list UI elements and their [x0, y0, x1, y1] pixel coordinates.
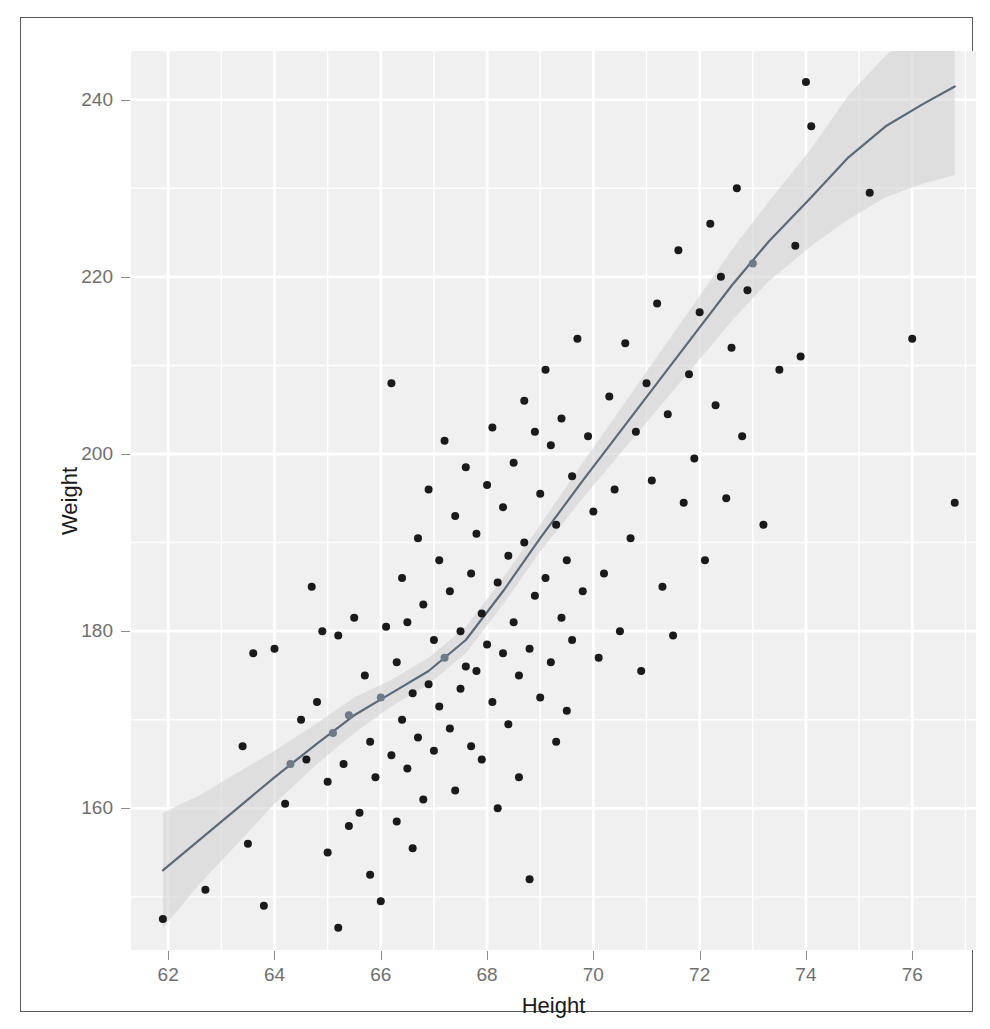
data-point [403, 618, 411, 626]
data-point [239, 742, 247, 750]
data-point [249, 649, 257, 657]
plot-canvas [131, 51, 976, 950]
data-point [568, 636, 576, 644]
x-tick-label: 70 [553, 965, 633, 984]
data-point [387, 379, 395, 387]
data-point [467, 742, 475, 750]
data-point [494, 578, 502, 586]
data-point [504, 552, 512, 560]
x-tick-mark [593, 951, 594, 960]
data-point [605, 392, 613, 400]
data-point [542, 366, 550, 374]
data-point [531, 592, 539, 600]
data-point [414, 733, 422, 741]
data-point [414, 534, 422, 542]
data-point [515, 773, 523, 781]
data-point [728, 344, 736, 352]
data-point [159, 915, 167, 923]
data-point [632, 428, 640, 436]
data-point [467, 570, 475, 578]
data-point [536, 694, 544, 702]
data-point [510, 459, 518, 467]
data-point [542, 574, 550, 582]
data-point [419, 601, 427, 609]
data-point [456, 627, 464, 635]
data-point [908, 335, 916, 343]
data-point [520, 397, 528, 405]
data-point [552, 738, 560, 746]
data-point [685, 370, 693, 378]
data-point [356, 809, 364, 817]
data-point [690, 454, 698, 462]
x-tick-mark [168, 951, 169, 960]
data-point [324, 849, 332, 857]
data-point [791, 242, 799, 250]
y-tick-mark [121, 100, 130, 101]
data-point [488, 423, 496, 431]
data-point [483, 640, 491, 648]
data-point [435, 702, 443, 710]
data-point [738, 432, 746, 440]
data-point [568, 472, 576, 480]
data-point [504, 720, 512, 728]
data-point [722, 494, 730, 502]
data-point [674, 246, 682, 254]
y-tick-label: 160 [41, 798, 113, 817]
data-point [866, 189, 874, 197]
x-tick-mark [487, 951, 488, 960]
data-point [286, 760, 294, 768]
data-point [600, 570, 608, 578]
data-point [706, 220, 714, 228]
data-point [717, 273, 725, 281]
data-point [643, 379, 651, 387]
data-point [270, 645, 278, 653]
data-point [759, 521, 767, 529]
data-point [297, 716, 305, 724]
data-point [526, 875, 534, 883]
data-point [499, 503, 507, 511]
data-point [664, 410, 672, 418]
data-point [712, 401, 720, 409]
data-point [547, 441, 555, 449]
data-point [393, 658, 401, 666]
x-axis-title: Height [131, 993, 976, 1019]
data-point [393, 818, 401, 826]
data-point [456, 685, 464, 693]
data-point [478, 756, 486, 764]
data-point [419, 795, 427, 803]
y-tick-mark [121, 454, 130, 455]
x-tick-mark [381, 951, 382, 960]
data-point [387, 751, 395, 759]
data-point [334, 924, 342, 932]
data-point [653, 299, 661, 307]
data-point [488, 698, 496, 706]
data-point [329, 729, 337, 737]
y-tick-label: 220 [41, 267, 113, 286]
data-point [472, 530, 480, 538]
data-point [547, 658, 555, 666]
data-point [409, 689, 417, 697]
data-point [579, 587, 587, 595]
data-point [627, 534, 635, 542]
data-point [557, 415, 565, 423]
data-point [382, 623, 390, 631]
data-point [462, 463, 470, 471]
data-point [472, 667, 480, 675]
plot-panel [131, 51, 976, 950]
data-point [616, 627, 624, 635]
data-point [797, 353, 805, 361]
data-point [398, 574, 406, 582]
data-point [377, 694, 385, 702]
data-point [345, 711, 353, 719]
x-tick-label: 62 [128, 965, 208, 984]
data-point [371, 773, 379, 781]
data-point [563, 707, 571, 715]
data-point [244, 840, 252, 848]
y-tick-mark [121, 808, 130, 809]
data-point [802, 78, 810, 86]
data-point [775, 366, 783, 374]
data-point [494, 804, 502, 812]
data-point [526, 645, 534, 653]
data-point [403, 764, 411, 772]
data-point [531, 428, 539, 436]
